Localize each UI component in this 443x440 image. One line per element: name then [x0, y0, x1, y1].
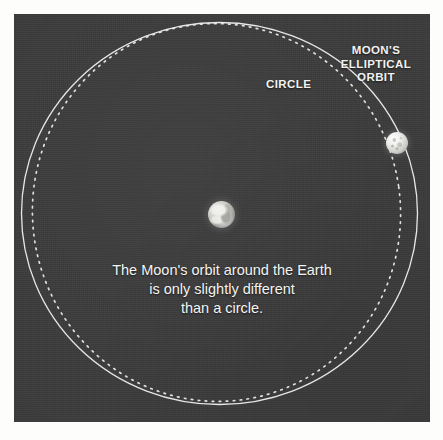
circle-label: CIRCLE [266, 78, 311, 90]
caption-line-1: The Moon's orbit around the Earth [14, 261, 430, 280]
moon-orbit-label-line-3: ORBIT [330, 71, 422, 85]
moon-sphere [386, 132, 408, 154]
moon-orbit-label-line-2: ELLIPTICAL [330, 58, 422, 72]
moon-elliptical-orbit-label: MOON'S ELLIPTICAL ORBIT [330, 44, 422, 85]
earth-sphere [208, 201, 235, 228]
moon-orbit-label-line-1: MOON'S [330, 44, 422, 58]
caption-line-2: is only slightly different [14, 280, 430, 299]
diagram-panel: CIRCLE MOON'S ELLIPTICAL ORBIT The Moon'… [14, 14, 430, 422]
figure-caption: The Moon's orbit around the Earth is onl… [14, 261, 430, 318]
figure-canvas: CIRCLE MOON'S ELLIPTICAL ORBIT The Moon'… [0, 0, 443, 440]
moon-craters [386, 132, 408, 154]
caption-line-3: than a circle. [14, 299, 430, 318]
earth-landmass [208, 201, 235, 228]
